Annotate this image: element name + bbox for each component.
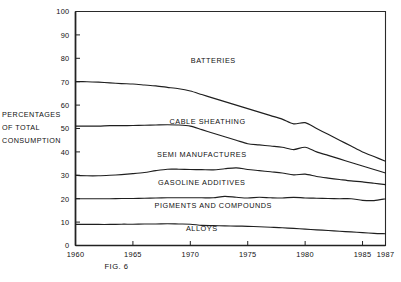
series-boundary-line xyxy=(76,196,386,200)
y-axis-label-line-2: OF TOTAL xyxy=(2,121,72,134)
band-label-batteries: BATTERIES xyxy=(191,56,236,65)
y-tick-label: 100 xyxy=(56,7,69,16)
y-axis-label: PERCENTAGES OF TOTAL CONSUMPTION xyxy=(2,108,72,147)
y-tick-label: 20 xyxy=(61,195,70,204)
x-tick-label: 1980 xyxy=(296,250,314,259)
series-boundary-line xyxy=(76,224,386,234)
band-label-alloys: ALLOYS xyxy=(186,224,218,233)
x-tick-label: 1960 xyxy=(67,250,85,259)
x-tick-label: 1987 xyxy=(377,250,395,259)
figure-container: PERCENTAGES OF TOTAL CONSUMPTION 0102030… xyxy=(0,0,401,282)
chart-tick-marks xyxy=(76,12,386,246)
x-tick-label: 1965 xyxy=(124,250,142,259)
x-tick-label: 1970 xyxy=(181,250,199,259)
y-tick-label: 70 xyxy=(61,78,70,87)
y-tick-label: 10 xyxy=(61,218,70,227)
y-axis-label-line-3: CONSUMPTION xyxy=(2,134,72,147)
band-label-pigments-and-compounds: PIGMENTS AND COMPOUNDS xyxy=(155,201,273,210)
x-axis-tick-labels: 1960196519701975198019851987 xyxy=(67,250,395,259)
chart-axes xyxy=(76,12,386,246)
band-label-semi-manufactures: SEMI MANUFACTURES xyxy=(157,150,247,159)
y-tick-label: 80 xyxy=(61,54,70,63)
band-label-gasoline-additives: GASOLINE ADDITIVES xyxy=(158,178,245,187)
y-tick-label: 40 xyxy=(61,148,70,157)
x-tick-label: 1975 xyxy=(239,250,257,259)
y-tick-label: 30 xyxy=(61,171,70,180)
figure-caption-text: FIG. 6 xyxy=(104,262,128,271)
y-tick-label: 90 xyxy=(61,31,70,40)
y-axis-label-line-1: PERCENTAGES xyxy=(2,108,72,121)
figure-caption: FIG. 6 xyxy=(0,262,401,271)
x-tick-label: 1985 xyxy=(354,250,372,259)
band-label-cable-sheathing: CABLE SHEATHING xyxy=(169,117,245,126)
